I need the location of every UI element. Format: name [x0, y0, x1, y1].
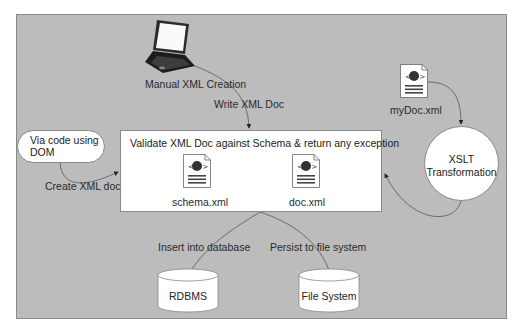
xml-document-icon: < >: [400, 64, 428, 98]
svg-text:<: <: [405, 73, 411, 81]
xslt-line1: XSLT: [425, 153, 498, 166]
rdbms-label: RDBMS: [157, 290, 219, 302]
laptop-icon: [143, 18, 203, 76]
via-code-line2: DOM: [30, 146, 104, 158]
doc-xml-label: doc.xml: [289, 196, 325, 208]
file-system-label: File System: [298, 290, 360, 302]
svg-text:>: >: [312, 163, 318, 171]
svg-text:>: >: [420, 73, 426, 81]
schema-xml-label: schema.xml: [172, 196, 228, 208]
insert-into-database-label: Insert into database: [158, 241, 250, 253]
file-system-node: File System: [298, 268, 360, 314]
create-xml-doc-label: Create XML doc: [45, 180, 120, 192]
write-xml-doc-label: Write XML Doc: [214, 98, 284, 110]
validate-title: Validate XML Doc against Schema & return…: [130, 137, 399, 149]
rdbms-node: RDBMS: [157, 268, 219, 314]
svg-text:<: <: [188, 163, 194, 171]
mydoc-xml-label: myDoc.xml: [390, 104, 442, 116]
persist-to-file-system-label: Persist to file system: [270, 241, 366, 253]
via-code-bubble: Via code using DOM: [17, 130, 105, 163]
xslt-transformation-node: XSLT Transformation: [424, 126, 499, 201]
manual-xml-creation-label: Manual XML Creation: [145, 78, 246, 90]
validate-box: Validate XML Doc against Schema & return…: [120, 130, 382, 212]
xml-document-icon: < >: [183, 154, 211, 188]
via-code-line1: Via code using: [30, 134, 104, 146]
xslt-line2: Transformation: [425, 166, 498, 179]
svg-text:>: >: [203, 163, 209, 171]
xml-document-icon: < >: [292, 154, 320, 188]
svg-text:<: <: [297, 163, 303, 171]
